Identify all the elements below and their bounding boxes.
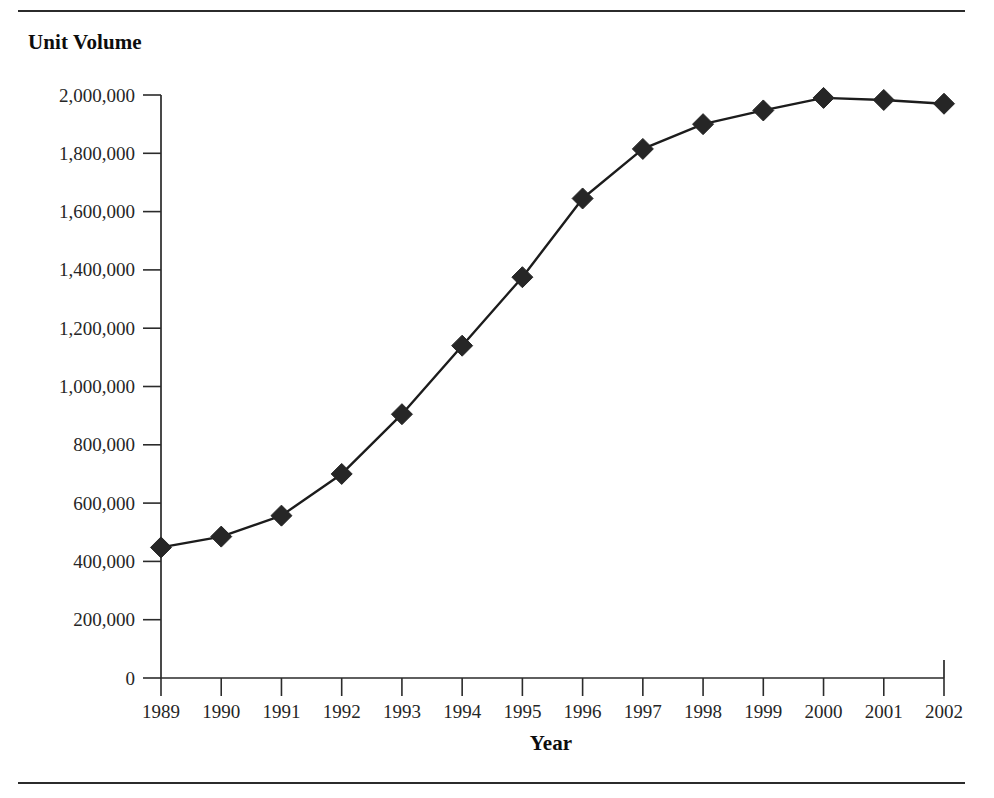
x-axis-tick-label: 1999 [744, 701, 782, 722]
data-point-marker [271, 505, 292, 526]
y-axis-tick-label: 800,000 [73, 434, 135, 455]
data-point-marker [934, 93, 955, 114]
x-axis-tick-label: 1995 [503, 701, 541, 722]
y-axis-tick-label: 1,400,000 [59, 259, 135, 280]
x-axis-tick-label: 1993 [383, 701, 421, 722]
y-axis-tick-label: 400,000 [73, 551, 135, 572]
data-point-marker [753, 100, 774, 121]
y-axis-tick-label: 1,200,000 [59, 318, 135, 339]
x-axis-tick-group: 1989199019911992199319941995199619971998… [142, 678, 963, 722]
y-axis-tick-label: 1,000,000 [59, 376, 135, 397]
x-axis-tick-label: 1994 [443, 701, 482, 722]
chart-axes [161, 95, 944, 678]
data-point-marker [873, 89, 894, 110]
data-point-marker [151, 537, 172, 558]
y-axis-tick-label: 1,800,000 [59, 143, 135, 164]
data-point-marker [813, 87, 834, 108]
y-axis-tick-group: 0200,000400,000600,000800,0001,000,0001,… [59, 85, 161, 689]
x-axis-tick-label: 1997 [624, 701, 662, 722]
unit-volume-series-line [161, 98, 944, 547]
x-axis-title-wrapper: Year [0, 731, 994, 756]
x-axis-tick-label: 1990 [202, 701, 240, 722]
y-axis-tick-label: 1,600,000 [59, 201, 135, 222]
x-axis-tick-label: 1991 [262, 701, 300, 722]
figure-container: Unit Volume 0200,000400,000600,000800,00… [0, 0, 994, 798]
x-axis-title: Year [530, 731, 572, 755]
x-axis-tick-label: 1989 [142, 701, 180, 722]
x-axis-tick-label: 1992 [323, 701, 361, 722]
x-axis-tick-label: 2001 [865, 701, 903, 722]
x-axis-tick-label: 1998 [684, 701, 722, 722]
unit-volume-marker-group [151, 87, 955, 557]
y-axis-tick-label: 2,000,000 [59, 85, 135, 106]
line-chart-plot: 0200,000400,000600,000800,0001,000,0001,… [0, 0, 994, 798]
x-axis-tick-label: 1996 [564, 701, 602, 722]
y-axis-tick-label: 600,000 [73, 493, 135, 514]
data-point-marker [693, 114, 714, 135]
bottom-divider-rule [18, 782, 965, 784]
x-axis-tick-label: 2002 [925, 701, 963, 722]
x-axis-tick-label: 2000 [805, 701, 843, 722]
data-point-marker [211, 526, 232, 547]
y-axis-tick-label: 200,000 [73, 609, 135, 630]
y-axis-tick-label: 0 [126, 668, 136, 689]
